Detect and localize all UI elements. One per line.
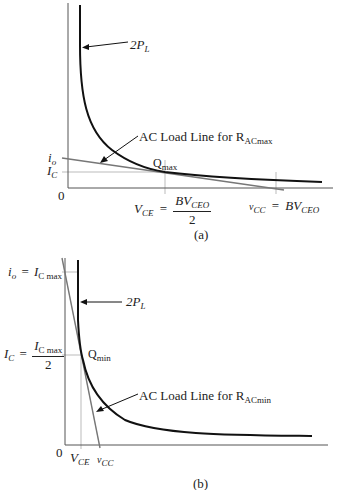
arrowhead-loadline-a [100,156,108,163]
label-vcc-a: vCC = BVCEO [249,199,319,215]
label-ic-b: IC = IC max2 [4,339,64,371]
label-ac-load-line-b: AC Load Line for RACmin [139,389,271,405]
caption-b: (b) [193,477,208,490]
power-hyperbola-b [78,260,312,436]
caption-a: (a) [194,228,208,241]
label-2pl-b: 2PL [126,295,145,311]
figure-a-plot [62,3,333,194]
arrowhead-2pl-b [80,299,87,305]
arrowhead-2pl-a [82,44,89,50]
label-q-min: Qmin [88,348,111,363]
power-hyperbola-a [80,5,322,182]
label-ac-load-line-a: AC Load Line for RACmax [139,130,272,146]
label-ic-a: IC [47,164,57,180]
diagram-canvas [0,0,342,490]
label-vcc-b: vCC [97,452,113,468]
arrow-2pl-a [86,42,128,47]
label-q-max: Qmax [153,157,177,172]
label-io-icmax-b: io = IC max [8,265,62,281]
label-2pl-a: 2PL [130,38,149,54]
label-origin-a: 0 [58,189,65,202]
label-origin-b: 0 [56,446,63,459]
label-vce-b: VCE [70,451,89,467]
arrow-loadline-b [100,394,138,410]
label-vce-a: VCE = BVCEO2 [134,194,211,226]
